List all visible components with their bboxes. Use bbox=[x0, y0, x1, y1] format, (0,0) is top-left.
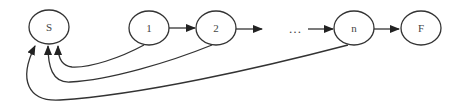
node-1: 1 bbox=[129, 11, 169, 45]
diagram-canvas: S 1 2 … n F bbox=[0, 0, 461, 105]
edge-1-to-S bbox=[58, 45, 144, 67]
node-S: S bbox=[29, 10, 69, 44]
node-F-label: F bbox=[418, 22, 424, 34]
node-F: F bbox=[401, 11, 441, 45]
node-n-label: n bbox=[351, 22, 357, 34]
node-2: 2 bbox=[196, 11, 236, 45]
node-n: n bbox=[334, 11, 374, 45]
ellipsis-label: … bbox=[289, 21, 302, 36]
node-2-label: 2 bbox=[213, 22, 219, 34]
node-S-label: S bbox=[46, 21, 52, 33]
state-diagram: S 1 2 … n F bbox=[0, 0, 461, 105]
node-1-label: 1 bbox=[146, 22, 152, 34]
edge-2-to-S bbox=[48, 45, 212, 82]
edge-n-to-S bbox=[27, 45, 348, 100]
